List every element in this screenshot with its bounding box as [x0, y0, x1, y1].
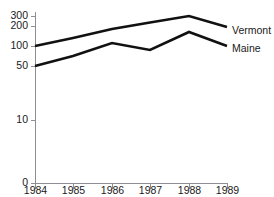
- x-tick-label-1984: 1984: [24, 184, 48, 196]
- y-tick-label-100: 100: [10, 39, 28, 51]
- chart-plot-area: 300 200 100 50 10 0 1984 1985 1986 1987 …: [0, 0, 274, 197]
- legend-label-vermont: Vermont: [232, 24, 271, 36]
- x-tick-label-1985: 1985: [62, 184, 86, 196]
- y-tick-label-10: 10: [16, 113, 28, 125]
- legend-label-maine: Maine: [232, 42, 261, 54]
- x-tick-label-1987: 1987: [139, 184, 163, 196]
- x-tick-label-1986: 1986: [101, 184, 125, 196]
- series-line-maine: [35, 32, 227, 66]
- line-chart: 300 200 100 50 10 0 1984 1985 1986 1987 …: [0, 0, 274, 197]
- x-tick-label-1989: 1989: [216, 184, 240, 196]
- series-line-vermont: [35, 16, 227, 46]
- y-tick-label-50: 50: [16, 59, 28, 71]
- y-tick-label-200: 200: [10, 19, 28, 31]
- x-tick-label-1988: 1988: [178, 184, 202, 196]
